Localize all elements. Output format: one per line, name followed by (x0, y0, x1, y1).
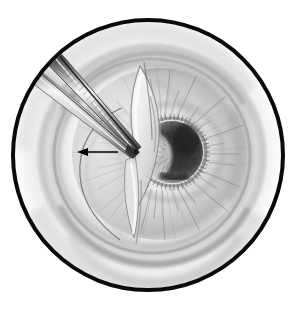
illustration-canvas (0, 0, 295, 311)
eye-surgery-illustration: Continuous curvilinear capsulorhexis wit… (0, 0, 295, 311)
